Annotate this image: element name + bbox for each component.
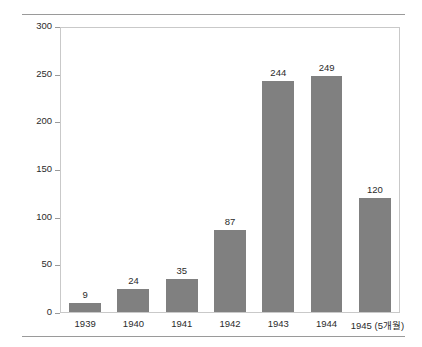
bar-value-label: 249: [311, 62, 343, 73]
x-axis-tick-label: 1945 (5개월): [351, 318, 399, 332]
bar: [69, 303, 101, 312]
chart-figure: 유보트 손실량 050100150200250300 9243587244249…: [0, 0, 422, 347]
bar-series: 9243587244249120: [61, 28, 399, 312]
y-axis-tick-label: 300: [36, 20, 52, 31]
bar: [262, 81, 294, 312]
y-axis-tick-mark: [55, 313, 60, 314]
x-axis-tick-label: 1940: [109, 318, 157, 329]
bar-value-label: 87: [214, 216, 246, 227]
bar: [166, 279, 198, 312]
bar-slot: 35: [166, 28, 198, 312]
bar: [311, 76, 343, 312]
bar: [117, 289, 149, 312]
x-axis-tick-label: 1941: [158, 318, 206, 329]
y-axis-tick: 50: [0, 265, 60, 266]
bar-slot: 244: [262, 28, 294, 312]
y-axis-tick-label: 250: [36, 68, 52, 79]
y-axis-tick: 300: [0, 27, 60, 28]
bar: [214, 230, 246, 312]
bar-slot: 87: [214, 28, 246, 312]
y-axis-tick: 0: [0, 313, 60, 314]
y-axis-tick: 100: [0, 218, 60, 219]
bar-value-label: 35: [166, 265, 198, 276]
y-axis-tick: 150: [0, 170, 60, 171]
y-axis-tick-label: 100: [36, 211, 52, 222]
y-axis-tick: 200: [0, 122, 60, 123]
y-axis-tick-label: 50: [41, 258, 52, 269]
x-axis-tick-label: 1942: [206, 318, 254, 329]
x-axis-tick-label: 1939: [61, 318, 109, 329]
bar-value-label: 24: [117, 275, 149, 286]
bar: [359, 198, 391, 312]
y-axis-tick-label: 150: [36, 163, 52, 174]
y-axis-tick-label: 200: [36, 115, 52, 126]
x-axis-tick-label: 1944: [302, 318, 350, 329]
bar-value-label: 244: [262, 67, 294, 78]
x-axis-tick-label: 1943: [254, 318, 302, 329]
bar-slot: 24: [117, 28, 149, 312]
y-axis-tick: 250: [0, 75, 60, 76]
y-axis-tick-label: 0: [47, 306, 52, 317]
bottom-divider-rule: [22, 336, 405, 337]
bar-slot: 249: [311, 28, 343, 312]
bar-value-label: 120: [359, 184, 391, 195]
bar-slot: 120: [359, 28, 391, 312]
bar-value-label: 9: [69, 289, 101, 300]
top-divider-rule: [22, 14, 405, 15]
bar-slot: 9: [69, 28, 101, 312]
